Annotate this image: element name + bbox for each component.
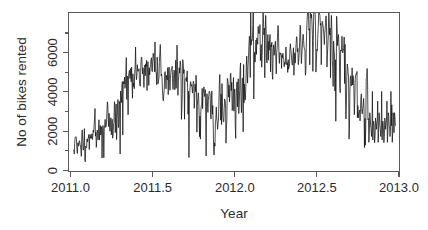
x-tick-label-2013-0: 2013.0 (379, 180, 419, 195)
x-axis-title: Year (220, 206, 248, 221)
bike-rentals-figure: 0 2000 4000 6000 No of bikes rented 2011… (0, 0, 428, 230)
y-tick-label-0: 0 (45, 167, 60, 174)
y-tick-label-6000: 6000 (45, 38, 60, 67)
y-axis-ticks (63, 33, 69, 171)
x-tick-label-2011-5: 2011.5 (133, 180, 172, 195)
series-line-daily-bike-rentals (74, 0, 396, 162)
y-tick-label-2000: 2000 (45, 117, 60, 146)
time-series-plot: 0 2000 4000 6000 No of bikes rented 2011… (0, 0, 428, 230)
y-tick-label-4000: 4000 (45, 77, 60, 106)
y-tick-labels: 0 2000 4000 6000 (45, 38, 60, 174)
x-tick-label-2012-0: 2012.0 (215, 180, 255, 195)
x-axis-ticks (71, 172, 400, 178)
x-tick-label-2012-5: 2012.5 (297, 180, 337, 195)
x-tick-label-2011-0: 2011.0 (51, 180, 90, 195)
y-axis-title: No of bikes rented (14, 37, 29, 147)
x-tick-labels: 2011.0 2011.5 2012.0 2012.5 2013.0 (51, 180, 419, 195)
